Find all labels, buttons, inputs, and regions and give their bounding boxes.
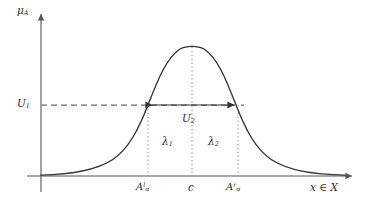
u2-label: U2 <box>182 113 195 125</box>
y-axis-label: μA <box>17 5 29 17</box>
lambda2-label: λ2 <box>208 136 219 148</box>
lambda1-label: λ1 <box>162 136 173 148</box>
u2-label-text: U <box>182 112 191 124</box>
lambda2-label-sub: 2 <box>215 140 219 148</box>
right-alpha-cut-label: Arα <box>226 182 240 192</box>
center-label-text: c <box>188 181 194 193</box>
y-axis-label-mu: μ <box>17 4 24 16</box>
right-alpha-cut-sub: α <box>236 185 240 192</box>
u1-label-sub: 1 <box>26 102 30 110</box>
x-axis-label-set: X <box>330 181 337 193</box>
left-alpha-cut-sub: α <box>145 185 149 192</box>
u1-label: U1 <box>17 98 30 110</box>
lambda1-label-text: λ <box>162 135 169 147</box>
x-axis-label-member: ∈ <box>316 181 330 193</box>
left-alpha-cut-label: Alα <box>136 182 149 192</box>
lambda2-label-text: λ <box>208 135 215 147</box>
membership-curve <box>41 46 345 175</box>
u2-label-sub: 2 <box>191 117 195 125</box>
y-axis-label-sub: A <box>24 9 29 17</box>
x-axis-label: x ∈ X <box>310 182 338 193</box>
center-label: c <box>188 182 194 193</box>
lambda1-label-sub: 1 <box>169 140 173 148</box>
u1-label-text: U <box>17 97 26 109</box>
fuzzy-membership-figure: μA U1 U2 λ1 λ2 Alα c Arα x ∈ X <box>0 0 378 216</box>
